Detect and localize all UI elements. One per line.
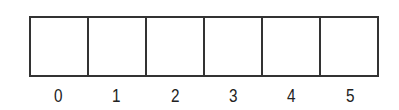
array-diagram bbox=[29, 16, 379, 77]
array-cell-2 bbox=[147, 18, 205, 75]
array-cell-5 bbox=[321, 18, 377, 75]
index-label-0: 0 bbox=[33, 84, 83, 108]
index-label-5: 5 bbox=[325, 84, 375, 108]
array-cell-4 bbox=[263, 18, 321, 75]
index-label-2: 2 bbox=[150, 84, 200, 108]
index-label-3: 3 bbox=[208, 84, 258, 108]
array-cell-1 bbox=[89, 18, 147, 75]
index-label-1: 1 bbox=[92, 84, 142, 108]
index-labels: 0 1 2 3 4 5 bbox=[29, 84, 379, 108]
array-cell-0 bbox=[31, 18, 89, 75]
index-label-4: 4 bbox=[267, 84, 317, 108]
array-cell-3 bbox=[205, 18, 263, 75]
